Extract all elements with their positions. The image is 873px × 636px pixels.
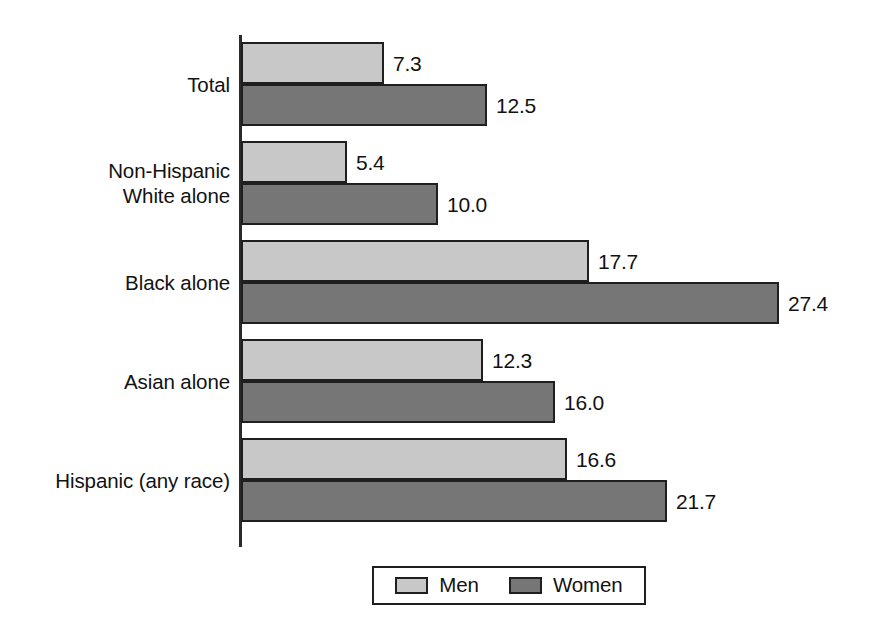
- bar-row: 5.4: [241, 141, 861, 183]
- chart-legend: Men Women: [372, 566, 646, 605]
- bar-value-label: 17.7: [598, 251, 638, 272]
- legend-label-men: Men: [439, 575, 479, 596]
- bar-row: 16.0: [241, 381, 861, 423]
- bar-group: Black alone17.727.4: [0, 240, 873, 324]
- bar-chart: Total7.312.5Non-Hispanic White alone5.41…: [0, 0, 873, 636]
- men-swatch-icon: [395, 577, 428, 594]
- category-label: Black alone: [125, 240, 230, 324]
- legend-entry-women[interactable]: Women: [509, 575, 623, 596]
- category-label: Hispanic (any race): [55, 438, 230, 522]
- bar-group: Non-Hispanic White alone5.410.0: [0, 141, 873, 225]
- bar-row: 17.7: [241, 240, 861, 282]
- bar-group: Hispanic (any race)16.621.7: [0, 438, 873, 522]
- bar-men[interactable]: [241, 141, 347, 183]
- bar-row: 21.7: [241, 480, 861, 522]
- bar-row: 16.6: [241, 438, 861, 480]
- bar-value-label: 5.4: [356, 152, 385, 173]
- bar-row: 7.3: [241, 42, 861, 84]
- bar-value-label: 21.7: [676, 491, 716, 512]
- bar-men[interactable]: [241, 438, 567, 480]
- category-label: Non-Hispanic White alone: [108, 141, 230, 225]
- legend-label-women: Women: [553, 575, 623, 596]
- bar-row: 12.5: [241, 84, 861, 126]
- bar-row: 12.3: [241, 339, 861, 381]
- category-label: Asian alone: [124, 339, 230, 423]
- bar-women[interactable]: [241, 381, 555, 423]
- bar-women[interactable]: [241, 282, 779, 324]
- bar-women[interactable]: [241, 480, 667, 522]
- bar-value-label: 12.3: [492, 350, 532, 371]
- bar-value-label: 7.3: [393, 53, 422, 74]
- bar-women[interactable]: [241, 183, 438, 225]
- bar-value-label: 16.6: [576, 449, 616, 470]
- bar-group: Asian alone12.316.0: [0, 339, 873, 423]
- bar-value-label: 27.4: [788, 293, 828, 314]
- bar-men[interactable]: [241, 339, 483, 381]
- bar-men[interactable]: [241, 240, 589, 282]
- bar-value-label: 12.5: [496, 95, 536, 116]
- legend-entry-men[interactable]: Men: [395, 575, 479, 596]
- bar-men[interactable]: [241, 42, 384, 84]
- women-swatch-icon: [509, 577, 542, 594]
- bar-row: 10.0: [241, 183, 861, 225]
- plot-area: Total7.312.5Non-Hispanic White alone5.41…: [0, 0, 873, 560]
- bar-group: Total7.312.5: [0, 42, 873, 126]
- bar-value-label: 16.0: [564, 392, 604, 413]
- bar-value-label: 10.0: [447, 194, 487, 215]
- category-label: Total: [187, 42, 230, 126]
- bar-row: 27.4: [241, 282, 861, 324]
- bar-women[interactable]: [241, 84, 487, 126]
